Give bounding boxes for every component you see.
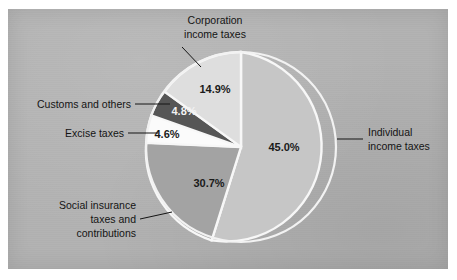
slice-value-customs: 4.8%	[171, 105, 196, 117]
category-label-social-line1: Social insurance	[59, 199, 136, 211]
slice-value-social: 30.7%	[193, 177, 224, 189]
leader-line-social	[140, 212, 172, 219]
category-label-customs: Customs and others	[37, 98, 131, 110]
leader-line-corporation	[182, 47, 201, 67]
pie-chart-svg: 45.0% 30.7% 4.6% 4.8% 14.9% Corporation …	[0, 0, 457, 280]
category-label-individual-line2: income taxes	[368, 140, 430, 152]
category-label-individual-line1: Individual	[368, 126, 412, 138]
category-label-excise: Excise taxes	[65, 127, 124, 139]
pie-slices	[146, 52, 336, 242]
category-label-corporation-line1: Corporation	[188, 14, 243, 26]
slice-value-excise: 4.6%	[154, 128, 179, 140]
slice-value-corporation: 14.9%	[199, 83, 230, 95]
pie-chart-figure: 45.0% 30.7% 4.6% 4.8% 14.9% Corporation …	[0, 0, 457, 280]
category-label-social-line2: taxes and	[90, 213, 136, 225]
slice-value-individual: 45.0%	[268, 141, 299, 153]
category-label-social-line3: contributions	[76, 227, 136, 239]
category-label-corporation-line2: income taxes	[184, 28, 246, 40]
